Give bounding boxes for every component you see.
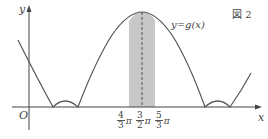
tick-label-5-3-pi: 53 π bbox=[155, 111, 170, 130]
y-axis-arrow-icon bbox=[27, 5, 32, 12]
curve-label: y=g(x) bbox=[171, 20, 205, 30]
origin-label: O bbox=[19, 110, 28, 121]
y-axis-label: y bbox=[19, 4, 25, 15]
graph-canvas bbox=[0, 0, 268, 139]
figure-2: y x O y=g(x) 図 2 43 π 32 π 53 π bbox=[0, 0, 268, 139]
tick-label-4-3-pi: 43 π bbox=[117, 111, 132, 130]
x-axis-label: x bbox=[258, 112, 264, 123]
figure-label: 図 2 bbox=[232, 10, 252, 20]
x-axis-arrow-icon bbox=[255, 105, 262, 110]
tick-label-3-2-pi: 32 π bbox=[136, 111, 151, 130]
